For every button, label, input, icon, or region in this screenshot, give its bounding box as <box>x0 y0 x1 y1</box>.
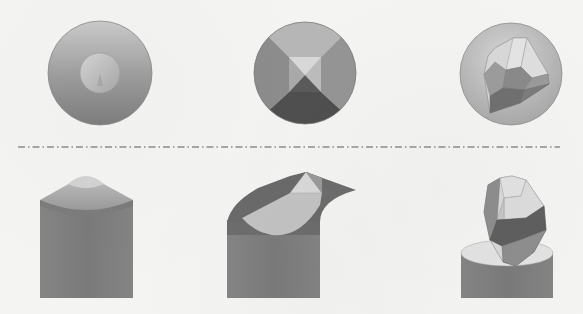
side-view-pyramidal <box>227 172 356 298</box>
top-view-conical <box>48 21 152 125</box>
top-view-faceted <box>460 23 562 125</box>
figure <box>0 0 583 314</box>
side-view-faceted <box>461 176 553 298</box>
figure-canvas <box>0 0 583 314</box>
side-view-conical <box>40 176 133 298</box>
top-view-pyramidal <box>254 22 356 124</box>
